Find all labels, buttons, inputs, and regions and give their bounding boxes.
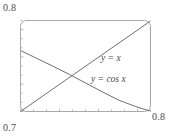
y-axis-max-label: 0.8 <box>3 2 16 13</box>
x-axis-max-label: 0.8 <box>152 111 165 122</box>
series-label-y-equals-x: y = x <box>101 53 121 63</box>
y-axis-ticks <box>21 21 24 112</box>
y-axis-min-label: 0.7 <box>3 122 16 133</box>
series-label-y-equals-cos-x: y = cos x <box>91 74 126 84</box>
series-line-y-equals-x <box>21 21 151 112</box>
plot-svg <box>0 0 176 138</box>
series-line-y-equals-cos-x <box>21 51 151 112</box>
x-axis-ticks <box>21 108 151 111</box>
